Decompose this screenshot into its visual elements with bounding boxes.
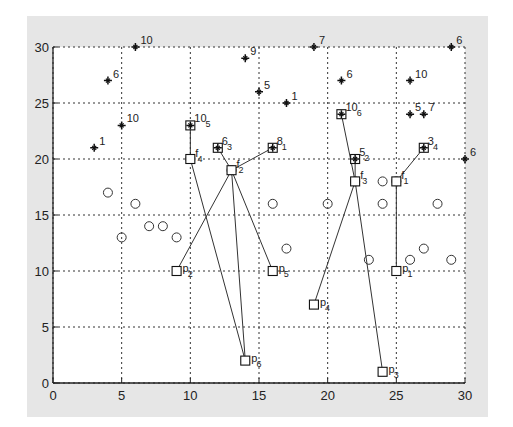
point-label: 1 xyxy=(99,135,105,147)
point-label: 6 xyxy=(456,34,462,46)
facility-square-marker xyxy=(186,155,195,164)
x-tick-label: 15 xyxy=(252,388,266,403)
x-tick-label: 0 xyxy=(49,388,56,403)
point-label: 10 xyxy=(415,68,427,80)
facility-square-marker xyxy=(392,177,401,186)
p-square-marker xyxy=(268,267,277,276)
y-tick-label: 15 xyxy=(35,208,49,223)
facility-square-marker xyxy=(227,166,236,175)
p-square-marker xyxy=(378,367,387,376)
scatter-chart: 051015202530051015202530 161010951761065… xyxy=(0,0,513,427)
point-label: 7 xyxy=(319,34,325,46)
point-label: 10 xyxy=(140,34,152,46)
x-tick-label: 10 xyxy=(183,388,197,403)
y-tick-label: 0 xyxy=(42,376,49,391)
point-label: 6 xyxy=(470,146,476,158)
y-tick-label: 20 xyxy=(35,152,49,167)
point-label: 6 xyxy=(346,68,352,80)
point-label: 10 xyxy=(127,112,139,124)
y-tick-label: 30 xyxy=(35,40,49,55)
x-tick-label: 5 xyxy=(118,388,125,403)
point-label: 9 xyxy=(250,45,256,57)
p-square-marker xyxy=(392,267,401,276)
x-tick-label: 25 xyxy=(389,388,403,403)
grid-lines xyxy=(53,47,465,383)
y-tick-label: 5 xyxy=(42,320,49,335)
p-square-marker xyxy=(172,267,181,276)
y-tick-label: 25 xyxy=(35,96,49,111)
point-label: 7 xyxy=(429,101,435,113)
point-label: 6 xyxy=(113,68,119,80)
point-label: 1 xyxy=(291,90,297,102)
p-square-marker xyxy=(241,356,250,365)
p-square-marker xyxy=(309,300,318,309)
facility-square-marker xyxy=(351,177,360,186)
point-label: 5 xyxy=(415,101,421,113)
point-label: 5 xyxy=(264,79,270,91)
y-tick-label: 10 xyxy=(35,264,49,279)
x-tick-label: 30 xyxy=(458,388,472,403)
x-tick-label: 20 xyxy=(320,388,334,403)
